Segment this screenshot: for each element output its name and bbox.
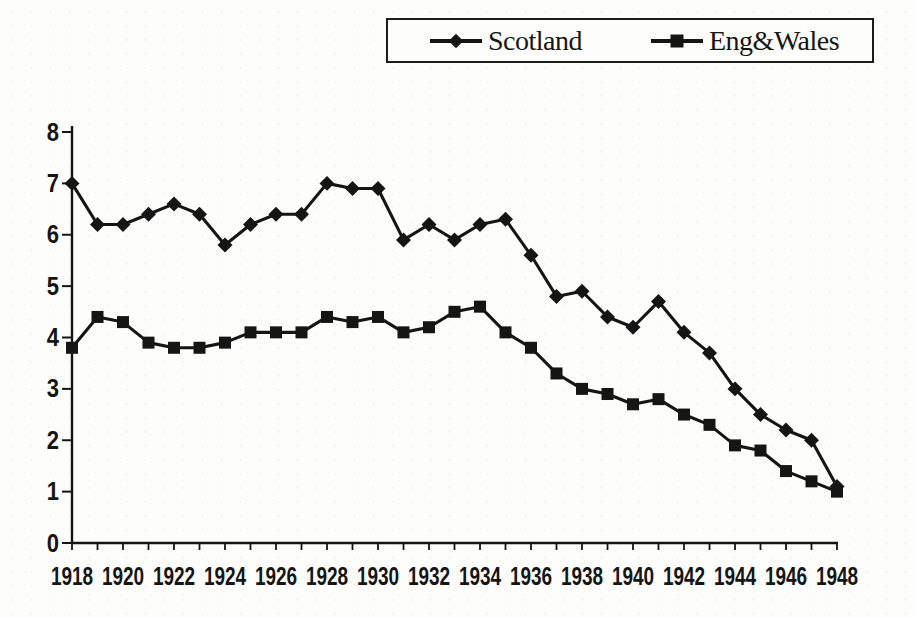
series-marker-scotland xyxy=(269,207,284,222)
series-line-eng-wales xyxy=(72,307,837,492)
legend-item-eng-wales: Eng&Wales xyxy=(651,25,839,57)
series-marker-eng-wales xyxy=(678,409,690,421)
series-marker-eng-wales xyxy=(780,465,792,477)
series-marker-eng-wales xyxy=(347,316,359,328)
series-marker-eng-wales xyxy=(525,342,537,354)
series-marker-scotland xyxy=(422,217,437,232)
x-tick-label: 1920 xyxy=(102,562,144,590)
x-tick-label: 1930 xyxy=(357,562,399,590)
diamond-marker-icon xyxy=(430,32,482,50)
series-marker-eng-wales xyxy=(194,342,206,354)
series-marker-scotland xyxy=(779,422,794,437)
series-marker-eng-wales xyxy=(602,388,614,400)
series-marker-eng-wales xyxy=(729,439,741,451)
series-marker-eng-wales xyxy=(168,342,180,354)
line-chart: 0123456781918192019221924192619281930193… xyxy=(0,0,916,618)
y-tick-label: 7 xyxy=(47,170,59,198)
series-marker-eng-wales xyxy=(755,445,767,457)
series-marker-scotland xyxy=(345,181,360,196)
y-tick-label: 2 xyxy=(47,426,59,454)
y-tick-label: 6 xyxy=(47,221,59,249)
series-marker-scotland xyxy=(804,433,819,448)
x-tick-label: 1944 xyxy=(714,562,757,590)
series-marker-eng-wales xyxy=(398,326,410,338)
series-marker-eng-wales xyxy=(372,311,384,323)
x-tick-label: 1928 xyxy=(306,562,348,590)
scanned-chart-page: 0123456781918192019221924192619281930193… xyxy=(0,0,916,618)
series-marker-scotland xyxy=(473,217,488,232)
series-marker-eng-wales xyxy=(143,337,155,349)
series-marker-eng-wales xyxy=(551,367,563,379)
series-marker-eng-wales xyxy=(423,321,435,333)
series-marker-eng-wales xyxy=(245,326,257,338)
x-tick-label: 1922 xyxy=(153,562,195,590)
series-marker-eng-wales xyxy=(576,383,588,395)
x-tick-label: 1926 xyxy=(255,562,297,590)
series-marker-eng-wales xyxy=(66,342,78,354)
x-tick-label: 1918 xyxy=(51,562,93,590)
x-tick-label: 1948 xyxy=(816,562,858,590)
series-marker-scotland xyxy=(141,207,156,222)
series-marker-eng-wales xyxy=(219,337,231,349)
y-tick-label: 0 xyxy=(47,529,59,557)
x-tick-label: 1938 xyxy=(561,562,603,590)
series-marker-eng-wales xyxy=(653,393,665,405)
x-tick-label: 1924 xyxy=(204,562,247,590)
y-tick-label: 5 xyxy=(47,272,59,300)
series-marker-eng-wales xyxy=(117,316,129,328)
chart-legend: Scotland Eng&Wales xyxy=(386,18,874,63)
series-marker-eng-wales xyxy=(92,311,104,323)
x-tick-label: 1940 xyxy=(612,562,654,590)
series-marker-eng-wales xyxy=(270,326,282,338)
y-tick-label: 8 xyxy=(47,118,59,146)
series-line-scotland xyxy=(72,183,837,486)
y-tick-label: 3 xyxy=(47,375,59,403)
series-marker-eng-wales xyxy=(321,311,333,323)
series-marker-scotland xyxy=(447,232,462,247)
series-marker-scotland xyxy=(116,217,131,232)
y-tick-label: 1 xyxy=(47,478,59,506)
series-marker-eng-wales xyxy=(704,419,716,431)
series-marker-scotland xyxy=(371,181,386,196)
x-tick-label: 1942 xyxy=(663,562,705,590)
x-tick-label: 1946 xyxy=(765,562,807,590)
series-marker-eng-wales xyxy=(474,301,486,313)
series-marker-eng-wales xyxy=(806,475,818,487)
legend-label-eng-wales: Eng&Wales xyxy=(709,25,839,57)
x-tick-label: 1934 xyxy=(459,562,502,590)
square-marker-icon xyxy=(651,32,703,50)
series-marker-eng-wales xyxy=(831,486,843,498)
series-marker-scotland xyxy=(167,196,182,211)
series-marker-scotland xyxy=(65,176,80,191)
legend-item-scotland: Scotland xyxy=(430,25,582,57)
series-marker-eng-wales xyxy=(296,326,308,338)
series-marker-scotland xyxy=(90,217,105,232)
series-marker-scotland xyxy=(549,289,564,304)
series-marker-eng-wales xyxy=(500,326,512,338)
x-tick-label: 1936 xyxy=(510,562,552,590)
series-marker-scotland xyxy=(396,232,411,247)
y-tick-label: 4 xyxy=(47,324,59,352)
x-tick-label: 1932 xyxy=(408,562,450,590)
series-marker-eng-wales xyxy=(627,398,639,410)
series-marker-eng-wales xyxy=(449,306,461,318)
legend-label-scotland: Scotland xyxy=(488,25,582,57)
